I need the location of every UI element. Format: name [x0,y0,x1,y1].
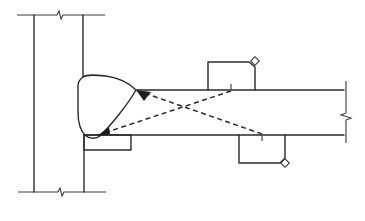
column [17,11,106,196]
column-bottom-break-line [18,188,106,196]
backing-bar [84,135,131,150]
column-top-break-line [17,11,105,19]
top-probe [208,57,259,90]
arrowhead-weld-toe-icon [136,90,151,101]
ut-weld-inspection-diagram [0,0,365,221]
flange-plate [84,81,351,143]
bottom-probe [239,135,289,167]
sound-beam-from-top-probe [104,91,231,133]
